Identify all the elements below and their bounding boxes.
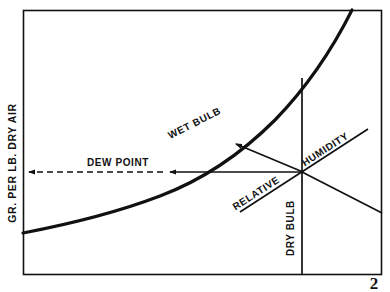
- page-number: 2: [370, 274, 379, 292]
- chart-canvas: GR. PER LB. DRY AIR WET BULB DEW POINT R…: [0, 0, 390, 292]
- psychrometric-chart-figure: GR. PER LB. DRY AIR WET BULB DEW POINT R…: [0, 0, 390, 292]
- dry-bulb-label: DRY BULB: [285, 200, 296, 256]
- y-axis-label: GR. PER LB. DRY AIR: [6, 103, 18, 223]
- dew-point-label: DEW POINT: [87, 157, 149, 168]
